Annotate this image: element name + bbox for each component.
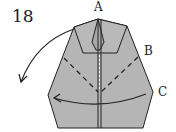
label-c: C <box>158 85 167 99</box>
label-b: B <box>144 44 153 58</box>
step-number: 18 <box>12 6 34 26</box>
label-a: A <box>94 0 103 14</box>
